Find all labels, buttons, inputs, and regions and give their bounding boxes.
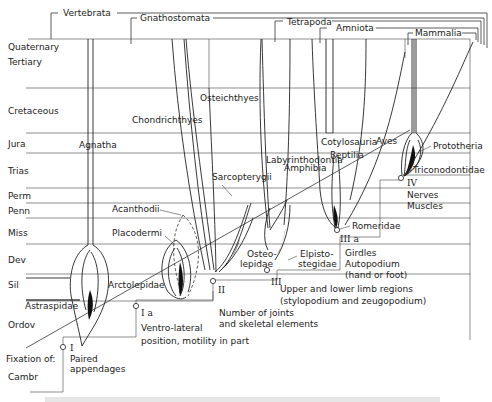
group-labels: Vertebrata Gnathostomata Tetrapoda Amnio… <box>63 8 462 38</box>
taxon-osteolepidae-line1: Osteo- <box>247 249 277 259</box>
period-cambr: Cambr <box>8 372 38 382</box>
fixation-label: Fixation of: <box>6 354 55 364</box>
period-perm: Perm <box>8 191 31 201</box>
taxon-triconodontidae: Triconodontidae <box>412 165 485 175</box>
stage-node-IIIa <box>334 227 339 232</box>
taxon-labyrinthodontia: Labyrinthodontia <box>266 155 343 165</box>
stage-Ia-line2: position, motility in part <box>141 336 249 346</box>
period-labels: Quaternary Tertiary Cretaceous Jura Tria… <box>7 42 60 382</box>
stage-IV-numeral: IV <box>407 178 418 188</box>
stage-node-II <box>210 278 215 283</box>
group-vertebrata: Vertebrata <box>63 8 111 18</box>
stage-I-line1: Paired <box>70 354 98 364</box>
taxon-romeridae: Romeridae <box>352 221 401 231</box>
taxon-cotylosauria: Cotylosauria <box>321 137 377 147</box>
group-gnathostomata: Gnathostomata <box>140 13 210 23</box>
period-quaternary: Quaternary <box>8 42 60 52</box>
stage-IIIa-numeral: III a <box>340 234 360 244</box>
stage-III-line1: Upper and lower limb regions <box>280 284 413 294</box>
caption-fragment <box>45 397 440 402</box>
group-tetrapoda: Tetrapoda <box>286 17 332 27</box>
stage-II-line1: Number of joints <box>219 308 294 318</box>
taxon-astraspidae: Astraspidae <box>25 301 79 311</box>
taxon-aves: Aves <box>376 136 397 146</box>
period-jura: Jura <box>7 139 26 149</box>
stage-node-Ia <box>133 303 138 308</box>
taxon-acanthodii: Acanthodii <box>112 204 160 214</box>
period-tertiary: Tertiary <box>7 57 42 67</box>
taxon-elpistostegidae-line1: Elpisto- <box>300 249 334 259</box>
taxon-sarcopterygii: Sarcopterygii <box>212 172 272 182</box>
period-dev: Dev <box>8 255 26 265</box>
stage-Ia-line1: Ventro-lateral <box>141 323 202 333</box>
stage-IIIa-line3: (hand or foot) <box>345 270 407 280</box>
stage-labels: Fixation of: I Paired appendages I a Ven… <box>6 178 443 374</box>
stage-IV-line2: Muscles <box>407 201 443 211</box>
stage-I-line2: appendages <box>70 364 126 374</box>
taxon-elpistostegidae-line2: stegidae <box>298 259 337 269</box>
period-trias: Trias <box>7 166 29 176</box>
period-cretaceous: Cretaceous <box>8 106 59 116</box>
taxon-osteichthyes: Osteichthyes <box>200 93 259 103</box>
period-penn: Penn <box>8 206 30 216</box>
stage-node-I <box>60 344 65 349</box>
stage-II-numeral: II <box>218 285 226 295</box>
stage-IIIa-line2: Autopodium <box>345 259 400 269</box>
taxon-osteolepidae-line2: lepidae <box>240 259 273 269</box>
taxon-chondrichthyes: Chondrichthyes <box>132 115 203 125</box>
period-ordov: Ordov <box>8 320 36 330</box>
vertebrate-phylogeny-diagram: Quaternary Tertiary Cretaceous Jura Tria… <box>0 0 492 402</box>
stage-node-IV <box>398 175 403 180</box>
taxon-placodermi: Placodermi <box>112 228 162 238</box>
stage-IV-line1: Nerves <box>407 190 439 200</box>
taxon-agnatha: Agnatha <box>79 140 117 150</box>
stage-III-line2: (stylopodium and zeugopodium) <box>280 296 426 306</box>
group-mammalia: Mammalia <box>415 28 462 38</box>
stage-IIIa-line1: Girdles <box>345 248 377 258</box>
period-miss: Miss <box>8 228 28 238</box>
taxon-prototheria: Prototheria <box>433 141 483 151</box>
taxon-arctolepidae: Arctolepidae <box>108 280 165 290</box>
stage-Ia-numeral: I a <box>141 308 153 318</box>
stage-I-numeral: I <box>70 343 74 353</box>
group-amniota: Amniota <box>336 23 374 33</box>
period-sil: Sil <box>8 280 19 290</box>
stage-II-line2: and skeletal elements <box>219 319 318 329</box>
